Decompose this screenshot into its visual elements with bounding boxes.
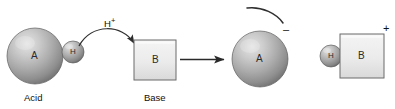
acid-caption: Acid: [24, 93, 42, 103]
electron-arc-icon: [247, 8, 283, 23]
acid-sphere-highlight: [15, 36, 35, 50]
proton-transfer-label: H+: [104, 17, 115, 29]
conjugate-acid-proton-label: H: [328, 52, 334, 60]
base-box-label: B: [152, 55, 159, 65]
conjugate-base-highlight: [240, 39, 260, 53]
conjugate-acid-box-label: B: [358, 51, 365, 61]
base-box-top-sheen: [135, 41, 174, 43]
diagram-vector-layer: [0, 0, 395, 109]
acid-sphere-label: A: [31, 51, 38, 61]
reaction-diagram-canvas: H+ A H B Acid Base A – H B +: [0, 0, 395, 109]
conjugate-base-label: A: [256, 54, 263, 64]
proton-transfer-charge: +: [111, 16, 115, 25]
conjugate-acid-box-top-sheen: [341, 35, 382, 37]
conjugate-acid-charge: +: [383, 23, 389, 34]
acid-proton-label: H: [70, 48, 76, 56]
curved-arrow-icon: [79, 29, 134, 46]
base-caption: Base: [144, 93, 166, 103]
conjugate-base-charge: –: [283, 24, 289, 35]
proton-transfer-letter: H: [104, 18, 111, 29]
